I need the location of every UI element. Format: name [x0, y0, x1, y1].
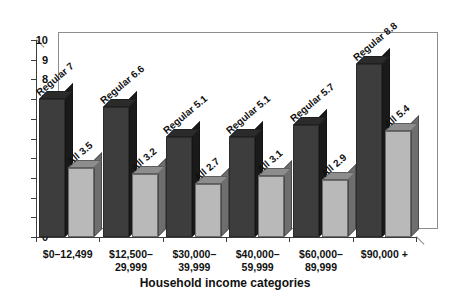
x-category-label: $90,000 + [349, 248, 420, 261]
bar-all-3 [195, 184, 221, 237]
bar-front-face [195, 184, 221, 237]
y-tick-label: 10 [24, 35, 48, 46]
x-axis-title: Household income categories [0, 276, 450, 290]
bar-front-face [229, 137, 255, 237]
bar-front-face [258, 176, 284, 237]
bar-regular-6 [356, 64, 382, 237]
bar-front-face [356, 64, 382, 237]
bar-all-4 [258, 176, 284, 237]
bar-front-face [132, 174, 158, 237]
x-category-label: $60,000– 89,999 [285, 248, 356, 274]
bar-all-2 [132, 174, 158, 237]
bar-side-face [411, 115, 419, 237]
plot-area: 012345678910 Regular 7All 3.5Regular 6.6… [36, 32, 438, 247]
x-tick-mark [416, 237, 417, 242]
bar-all-5 [322, 180, 348, 237]
bar-regular-4 [229, 137, 255, 237]
x-tick-mark [226, 237, 227, 242]
x-category-label: $30,000– 39,999 [159, 248, 230, 274]
x-tick-mark [36, 237, 37, 242]
x-tick-mark [163, 237, 164, 242]
bar-front-face [385, 131, 411, 237]
bar-regular-5 [293, 125, 319, 237]
bar-all-1 [68, 168, 94, 237]
bar-front-face [103, 107, 129, 237]
bar-regular-2 [103, 107, 129, 237]
x-tick-mark [353, 237, 354, 242]
bar-front-face [293, 125, 319, 237]
bar-all-6 [385, 131, 411, 237]
x-tick-mark [289, 237, 290, 242]
chart-figure: 012345678910 Regular 7All 3.5Regular 6.6… [0, 0, 450, 303]
x-category-label: $12,500– 29,999 [95, 248, 166, 274]
depth-diagonal-bottom-right [416, 236, 425, 245]
bar-front-face [39, 99, 65, 237]
bar-front-face [166, 137, 192, 237]
bar-front-face [68, 168, 94, 237]
x-category-label: $40,000– 59,999 [222, 248, 293, 274]
x-category-label: $0–12,499 [32, 248, 103, 261]
bar-front-face [322, 180, 348, 237]
bar-regular-1 [39, 99, 65, 237]
y-tick-label: 9 [24, 55, 48, 66]
x-tick-mark [99, 237, 100, 242]
bar-regular-3 [166, 137, 192, 237]
